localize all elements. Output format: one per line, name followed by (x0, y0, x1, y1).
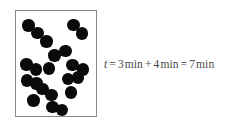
particle-atom (65, 86, 77, 98)
particle-container-box (15, 10, 97, 117)
particle-atom (27, 94, 39, 106)
particle-atom (59, 45, 71, 57)
equation-term2-unit: min (159, 58, 178, 70)
particle-atom (30, 63, 42, 75)
particle-atom (72, 71, 84, 83)
equation-term1-unit: min (124, 58, 143, 70)
particle-atom (40, 35, 52, 47)
equation-result-unit: min (195, 58, 214, 70)
equation-term1-value: 3 (118, 58, 124, 70)
particle-atom (56, 104, 68, 116)
particle-atom (43, 62, 55, 74)
equation-equals-second: = (179, 58, 190, 70)
particle-atom (76, 27, 88, 39)
particle-atom (45, 89, 57, 101)
equation-plus-sign: + (143, 58, 154, 70)
time-equation: t=3min+4min=7min (104, 55, 240, 73)
equation-equals-first: = (107, 58, 118, 70)
molecular-diffusion-figure: t=3min+4min=7min (0, 0, 242, 126)
